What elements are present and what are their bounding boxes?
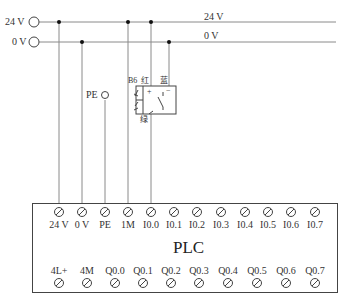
rail-0v-terminal-icon bbox=[29, 37, 39, 47]
terminal-label: Q0.2 bbox=[161, 266, 181, 276]
terminal-label: Q0.6 bbox=[276, 266, 296, 276]
rail-24v-terminal-icon bbox=[29, 17, 39, 27]
terminal-label: Q0.4 bbox=[218, 266, 238, 276]
terminal-label: Q0.7 bbox=[305, 266, 325, 276]
sensor-tag: B6 bbox=[128, 77, 137, 85]
terminal-label: Q0.3 bbox=[189, 266, 209, 276]
sensor-minus-label: − bbox=[166, 87, 171, 95]
terminal-label: 4L+ bbox=[51, 266, 68, 276]
sensor-wire-blue-label: 蓝 bbox=[160, 77, 168, 85]
rail-24v-label: 24 V bbox=[5, 17, 25, 27]
terminal-label: 4M bbox=[80, 266, 94, 276]
terminal-label: I0.2 bbox=[189, 220, 205, 230]
terminal-label: I0.1 bbox=[166, 220, 182, 230]
terminal-label: I0.5 bbox=[260, 220, 276, 230]
terminal-label: PE bbox=[99, 220, 111, 230]
sensor-wire-green-label: 绿 bbox=[140, 116, 148, 124]
rail-0v-right-label: 0 V bbox=[204, 31, 219, 41]
sensor-wire-red-label: 红 bbox=[141, 77, 149, 85]
sensor-plus-label: + bbox=[147, 88, 152, 96]
terminal-label: I0.4 bbox=[237, 220, 253, 230]
terminal-label: Q0.0 bbox=[105, 266, 125, 276]
terminal-label: I0.7 bbox=[307, 220, 323, 230]
terminal-label: 24 V bbox=[49, 220, 69, 230]
pe-node-label: PE bbox=[86, 90, 98, 100]
vertical-wires bbox=[59, 22, 169, 208]
terminal-label: Q0.5 bbox=[247, 266, 267, 276]
supply-rails bbox=[29, 17, 336, 47]
plc-title: PLC bbox=[173, 239, 204, 256]
terminal-label: 0 V bbox=[75, 220, 90, 230]
rail-24v-right-label: 24 V bbox=[204, 12, 224, 22]
terminal-label: I0.0 bbox=[143, 220, 159, 230]
rail-0v-label: 0 V bbox=[12, 37, 27, 47]
junction-dots bbox=[57, 20, 171, 44]
pe-terminal-icon bbox=[102, 92, 109, 99]
terminal-label: 1M bbox=[121, 220, 135, 230]
terminal-label: I0.6 bbox=[283, 220, 299, 230]
terminal-label: I0.3 bbox=[213, 220, 229, 230]
terminal-label: Q0.1 bbox=[133, 266, 153, 276]
